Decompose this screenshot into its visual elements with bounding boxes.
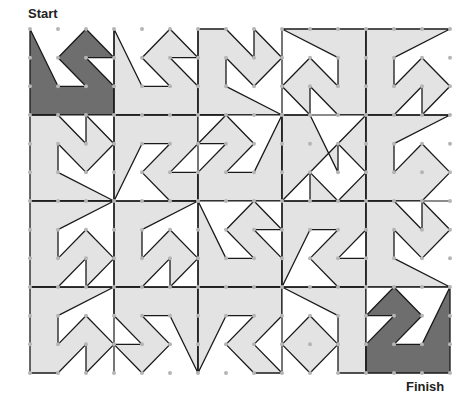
grid-dot <box>56 228 60 232</box>
grid-dot <box>28 285 32 289</box>
grid-dot <box>308 314 312 318</box>
grid-dot <box>112 256 116 260</box>
grid-dot <box>392 199 396 203</box>
grid-dot <box>56 27 60 31</box>
grid-dot <box>112 228 116 232</box>
grid-dot <box>448 285 452 289</box>
grid-dot <box>364 199 368 203</box>
grid-dot <box>336 170 340 174</box>
grid-dot <box>84 113 88 117</box>
grid-dot <box>448 228 452 232</box>
grid-dot <box>280 84 284 88</box>
grid-dot <box>364 342 368 346</box>
grid-dot <box>84 27 88 31</box>
grid-dot <box>28 314 32 318</box>
grid-dot <box>308 170 312 174</box>
grid-dot <box>420 342 424 346</box>
grid-dot <box>168 56 172 60</box>
grid-dot <box>448 27 452 31</box>
grid-dot <box>364 84 368 88</box>
grid-dot <box>420 314 424 318</box>
grid-dot <box>140 84 144 88</box>
grid-dot <box>56 56 60 60</box>
grid-dot <box>280 199 284 203</box>
grid-dot <box>252 84 256 88</box>
grid-dot <box>196 56 200 60</box>
grid-dot <box>224 27 228 31</box>
grid-dot <box>252 199 256 203</box>
grid-dot <box>280 56 284 60</box>
grid-dot <box>224 285 228 289</box>
grid-dot <box>112 27 116 31</box>
grid-dot <box>168 228 172 232</box>
grid-dot <box>364 371 368 375</box>
grid-dot <box>280 314 284 318</box>
grid-dot <box>448 342 452 346</box>
grid-dot <box>84 170 88 174</box>
grid-dot <box>112 142 116 146</box>
grid-dot <box>196 228 200 232</box>
grid-dot <box>448 113 452 117</box>
grid-dot <box>224 256 228 260</box>
grid-dot <box>140 170 144 174</box>
grid-dot <box>448 314 452 318</box>
grid-dot <box>140 142 144 146</box>
grid-dot <box>84 314 88 318</box>
grid-dot <box>364 113 368 117</box>
grid-dot <box>140 199 144 203</box>
grid-dot <box>196 342 200 346</box>
grid-dot <box>392 256 396 260</box>
grid-dot <box>140 27 144 31</box>
grid-dot <box>140 314 144 318</box>
grid-dot <box>168 199 172 203</box>
grid-dot <box>280 113 284 117</box>
grid-dot <box>168 314 172 318</box>
grid-dot <box>196 84 200 88</box>
grid-dot <box>392 285 396 289</box>
grid-dot <box>420 56 424 60</box>
grid-dot <box>168 170 172 174</box>
grid-dot <box>392 27 396 31</box>
grid-dot <box>112 199 116 203</box>
grid-dot <box>140 56 144 60</box>
grid-dot <box>196 199 200 203</box>
grid-dot <box>140 371 144 375</box>
grid-dot <box>336 256 340 260</box>
grid-dot <box>448 256 452 260</box>
grid-dot <box>28 371 32 375</box>
grid-dot <box>196 371 200 375</box>
tile-puzzle-grid <box>0 0 467 408</box>
grid-dot <box>420 84 424 88</box>
grid-dot <box>84 84 88 88</box>
grid-dot <box>364 142 368 146</box>
grid-dot <box>84 256 88 260</box>
grid-dot <box>364 314 368 318</box>
grid-dot <box>280 170 284 174</box>
grid-dot <box>364 170 368 174</box>
grid-dot <box>392 342 396 346</box>
grid-dot <box>168 285 172 289</box>
grid-dot <box>392 84 396 88</box>
grid-dot <box>336 113 340 117</box>
grid-dot <box>252 371 256 375</box>
grid-dot <box>364 285 368 289</box>
grid-dot <box>336 56 340 60</box>
grid-dot <box>252 170 256 174</box>
grid-dot <box>392 170 396 174</box>
grid-dot <box>308 27 312 31</box>
grid-dot <box>112 56 116 60</box>
grid-dot <box>336 371 340 375</box>
grid-dot <box>448 142 452 146</box>
grid-dot <box>224 84 228 88</box>
grid-dot <box>308 84 312 88</box>
grid-dot <box>308 113 312 117</box>
grid-dot <box>224 56 228 60</box>
grid-dot <box>336 84 340 88</box>
grid-dot <box>28 84 32 88</box>
grid-dot <box>196 142 200 146</box>
grid-dot <box>112 342 116 346</box>
grid-dot <box>196 256 200 260</box>
grid-dot <box>420 113 424 117</box>
grid-dot <box>56 285 60 289</box>
grid-dot <box>168 342 172 346</box>
